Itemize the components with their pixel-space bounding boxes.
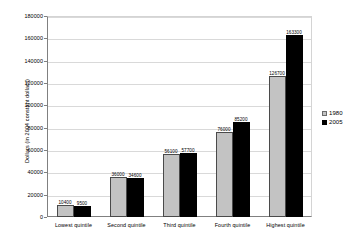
bar-slot: 163300 [286,16,303,217]
legend-item-2005[interactable]: 2005 [322,119,343,125]
bar-2005-second-quintile[interactable]: 34600 [127,178,144,217]
bar-slot: 10400 [57,16,74,217]
bar-2005-fourth-quintile[interactable]: 85200 [233,122,250,217]
bar-1980-third-quintile[interactable]: 56100 [163,154,180,217]
bar-slot: 76000 [216,16,233,217]
bar-slot: 57700 [180,16,197,217]
legend-item-1980[interactable]: 1980 [322,110,343,116]
legend-swatch-2005-icon [322,120,327,125]
bar-value-label: 57700 [181,148,194,153]
bar-slot: 36000 [110,16,127,217]
bar-2005-lowest-quintile[interactable]: 9500 [74,206,91,217]
legend-label: 2005 [329,119,343,125]
bar-value-label: 36000 [111,172,124,177]
x-axis-category-label: Fourth quintile [206,222,259,228]
bar-slot: 126700 [269,16,286,217]
x-axis-category-label: Highest quintile [259,222,312,228]
x-axis-category-labels: Lowest quintileSecond quintileThird quin… [47,222,312,228]
legend-swatch-1980-icon [322,111,327,116]
y-axis-tick-label: 180000 [24,13,43,19]
y-axis-tick-label: 160000 [24,35,43,41]
bar-value-label: 76000 [217,127,230,132]
x-axis-category-label: Third quintile [153,222,206,228]
bar-slot: 85200 [233,16,250,217]
y-axis-tick-label: 140000 [24,58,43,64]
y-axis-tick-label: 0 [40,214,43,220]
bar-1980-highest-quintile[interactable]: 126700 [269,76,286,217]
bar-value-label: 56100 [164,149,177,154]
bar-slot: 34600 [127,16,144,217]
bar-slot: 56100 [163,16,180,217]
bar-value-label: 126700 [269,71,285,76]
y-axis-tick-label: 100000 [24,102,43,108]
bar-1980-second-quintile[interactable]: 36000 [110,177,127,217]
legend: 19802005 [322,110,343,125]
bar-value-label: 163300 [286,30,302,35]
bar-value-label: 85200 [234,117,247,122]
bar-group: 5610057700 [153,16,206,217]
y-axis-tick-labels: 0200004000060000800001000001200001400001… [0,16,47,217]
bar-value-label: 34600 [128,173,141,178]
bar-1980-lowest-quintile[interactable]: 10400 [57,205,74,217]
x-axis-category-label: Second quintile [100,222,153,228]
bar-value-label: 10400 [58,200,71,205]
bar-2005-third-quintile[interactable]: 57700 [180,153,197,217]
bar-group: 3600034600 [100,16,153,217]
y-axis-tick-label: 40000 [28,169,44,175]
bar-1980-fourth-quintile[interactable]: 76000 [216,132,233,217]
bar-group: 7600085200 [206,16,259,217]
bar-group: 104009500 [47,16,100,217]
y-axis-tick-label: 60000 [28,147,44,153]
bar-value-label: 9500 [77,201,87,206]
x-axis-category-label: Lowest quintile [47,222,100,228]
y-axis-tick-mark [44,217,47,218]
bar-group: 126700163300 [259,16,312,217]
y-axis-tick-label: 120000 [24,80,43,86]
bar-slot: 9500 [74,16,91,217]
bar-groups: 1040095003600034600561005770076000852001… [47,16,312,217]
bar-chart: Dollars (in 2004 constant dollars) 02000… [0,0,363,245]
bar-2005-highest-quintile[interactable]: 163300 [286,35,303,217]
y-axis-tick-label: 80000 [28,125,44,131]
y-axis-tick-label: 20000 [28,192,44,198]
legend-label: 1980 [329,110,343,116]
